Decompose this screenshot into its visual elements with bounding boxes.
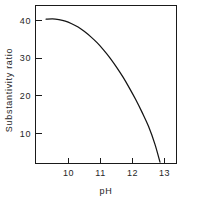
data-curve-substantivity xyxy=(46,19,160,162)
y-axis-ticks xyxy=(36,20,42,133)
y-tick-label-10: 10 xyxy=(20,129,31,139)
x-axis-ticks xyxy=(69,158,165,164)
x-tick-labels: 10 11 12 13 xyxy=(63,168,170,178)
x-tick-label-10: 10 xyxy=(63,168,74,178)
chart-plot-area: 40 30 20 10 10 11 12 13 pH Substantivity… xyxy=(0,0,199,199)
x-tick-label-11: 11 xyxy=(95,168,106,178)
y-tick-label-20: 20 xyxy=(20,91,31,101)
x-tick-label-13: 13 xyxy=(159,168,170,178)
y-tick-label-40: 40 xyxy=(20,16,31,26)
y-tick-label-30: 30 xyxy=(20,53,31,63)
x-tick-label-12: 12 xyxy=(127,168,138,178)
axis-frame xyxy=(36,6,177,164)
x-axis-title: pH xyxy=(100,186,113,196)
y-tick-labels: 40 30 20 10 xyxy=(20,16,31,139)
y-axis-title: Substantivity ratio xyxy=(4,48,14,132)
chart-figure: 40 30 20 10 10 11 12 13 pH Substantivity… xyxy=(0,0,199,199)
